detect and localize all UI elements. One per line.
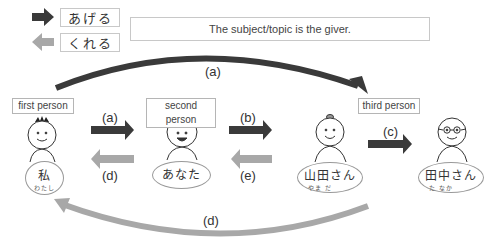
top-arc-label: (a) [205, 64, 221, 79]
arrow-third-to-second [231, 149, 272, 169]
yamada-name: 山田さん [298, 166, 362, 183]
second-person-name-oval: あなた [152, 161, 211, 189]
tanaka-name: 田中さん [419, 166, 483, 183]
third-person-label: third person [358, 98, 420, 114]
first-person-name-oval: 私 わたし [25, 161, 64, 195]
third-to-second-label: (e) [240, 168, 256, 183]
first-person-label: first person [12, 98, 74, 114]
second-to-first-label: (d) [102, 168, 118, 183]
yamada-name-oval: 山田さん やま だ [297, 162, 363, 193]
first-person-name: 私 [26, 166, 63, 183]
first-person-figure [28, 116, 56, 162]
second-to-third-label: (b) [240, 110, 256, 125]
first-person-ruby: わたし [26, 183, 63, 192]
tanaka-name-oval: 田中さん た なか [418, 162, 484, 193]
yamada-figure [315, 115, 346, 163]
tanaka-ruby: た なか [419, 183, 483, 192]
tanaka-figure [437, 118, 467, 162]
third-to-third-label: (c) [383, 124, 398, 139]
second-person-name: あなた [153, 162, 210, 188]
second-person-label: second person [146, 98, 216, 128]
yamada-ruby: やま だ [298, 183, 362, 192]
bottom-arc-label: (d) [203, 213, 219, 228]
first-to-second-label: (a) [102, 110, 118, 125]
arrow-second-to-first [91, 149, 134, 169]
